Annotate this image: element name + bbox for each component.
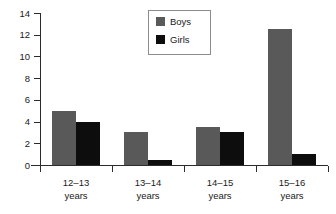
- y-axis-tick-label: 2: [6, 139, 30, 148]
- bar-boys-group-0: [52, 111, 76, 165]
- y-axis-tick-label: 12: [6, 30, 30, 39]
- y-axis-tick-label: 4: [6, 117, 30, 126]
- y-axis-tick-label: 6: [6, 95, 30, 104]
- x-axis-tick: [256, 166, 257, 172]
- bar-girls-group-2: [220, 132, 244, 165]
- legend-label-boys: Boys: [170, 17, 191, 27]
- legend-label-girls: Girls: [170, 35, 190, 45]
- bar-girls-group-1: [148, 160, 172, 165]
- x-axis-tick: [184, 166, 185, 172]
- legend: Boys Girls: [148, 10, 211, 55]
- girls-swatch-icon: [156, 35, 165, 44]
- bar-boys-group-1: [124, 132, 148, 165]
- bar-chart: 02468101214 12–13 years13–14 years14–15 …: [0, 0, 336, 214]
- x-axis-tick: [328, 166, 329, 172]
- bar-girls-group-0: [76, 122, 100, 165]
- x-axis-label-group-3: 15–16 years: [256, 177, 328, 202]
- y-axis-tick-label: 10: [6, 52, 30, 61]
- y-axis-tick-label: 8: [6, 74, 30, 83]
- x-axis-tick: [112, 166, 113, 172]
- legend-item-girls: Girls: [156, 35, 190, 45]
- legend-item-boys: Boys: [156, 17, 191, 27]
- x-axis-label-group-0: 12–13 years: [40, 177, 112, 202]
- x-axis-label-group-1: 13–14 years: [112, 177, 184, 202]
- x-axis-line: [31, 165, 328, 166]
- x-axis-label-group-2: 14–15 years: [184, 177, 256, 202]
- bar-boys-group-3: [268, 29, 292, 165]
- y-axis-tick-label: 0: [6, 161, 30, 170]
- bar-girls-group-3: [292, 154, 316, 165]
- x-axis-tick: [40, 166, 41, 172]
- boys-swatch-icon: [156, 17, 165, 26]
- bar-boys-group-2: [196, 127, 220, 165]
- y-axis-tick-label: 14: [6, 9, 30, 18]
